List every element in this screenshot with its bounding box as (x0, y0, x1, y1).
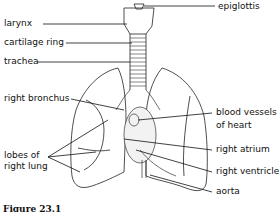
label-cartilage-ring: cartilage ring (4, 37, 64, 48)
right-lung-outline (71, 68, 126, 188)
label-right-atrium: right atrium (216, 144, 270, 155)
label-right-bronchus: right bronchus (4, 93, 69, 104)
label-epiglottis: epiglottis (218, 1, 260, 12)
figure-caption: Figure 23.1 (3, 204, 61, 212)
label-aorta: aorta (216, 186, 240, 197)
label-blood-vessels-line2: of heart (216, 120, 252, 131)
anatomy-drawing (0, 0, 280, 212)
label-trachea: trachea (4, 56, 38, 67)
label-right-ventricle: right ventricle (216, 166, 279, 177)
label-lobes-line1: lobes of (4, 150, 39, 161)
diagram-lungs-heart: larynx cartilage ring trachea right bron… (0, 0, 280, 212)
label-lobes-line2: right lung (4, 161, 48, 172)
label-larynx: larynx (4, 18, 32, 29)
label-blood-vessels-line1: blood vessels (216, 107, 277, 118)
larynx-shape (124, 8, 154, 34)
